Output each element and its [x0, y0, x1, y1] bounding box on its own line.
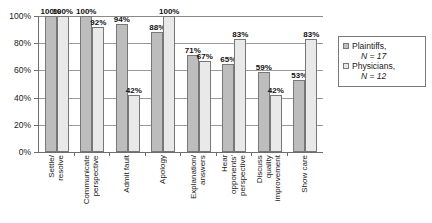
y-axis-tick-label: 0%: [19, 148, 31, 157]
y-axis-tick-label: 100%: [9, 12, 31, 21]
bar-value-label: 83%: [232, 31, 248, 39]
bar[interactable]: 42%: [128, 95, 140, 152]
x-axis-category: Settle/ resolve: [38, 155, 74, 223]
legend-swatch-icon: [343, 63, 349, 69]
x-axis-category: Discuss quality improvement: [251, 155, 287, 223]
x-axis-category: Apology: [145, 155, 181, 223]
bar-value-label: 42%: [126, 87, 142, 95]
x-axis-category-label: Show care: [300, 155, 309, 193]
bar-value-label: 100%: [53, 8, 73, 16]
legend-entry[interactable]: Physicians,: [343, 61, 421, 71]
legend-label: Plaintiffs,: [352, 41, 386, 51]
plot-area: 100%100%100%92%94%42%88%100%71%67%65%83%…: [38, 16, 323, 153]
bar-group: 53%83%: [288, 16, 324, 152]
bar[interactable]: 67%: [199, 61, 211, 152]
x-axis-category: Show care: [287, 155, 323, 223]
bar[interactable]: 100%: [57, 16, 69, 152]
y-axis-tick-label: 60%: [14, 66, 31, 75]
x-axis-category-labels: Settle/ resolveCommunicate perspectiveAd…: [38, 155, 322, 223]
bar-group: 100%100%: [39, 16, 75, 152]
bar-value-label: 42%: [268, 87, 284, 95]
bar[interactable]: 65%: [222, 64, 234, 152]
bar-value-label: 67%: [197, 53, 213, 61]
bar[interactable]: 100%: [163, 16, 175, 152]
legend-entry[interactable]: Plaintiffs,: [343, 41, 421, 51]
bar-group: 88%100%: [146, 16, 182, 152]
y-axis-tick-label: 40%: [14, 93, 31, 102]
x-axis-category-label: Admit fault: [122, 155, 131, 193]
bar[interactable]: 100%: [80, 16, 92, 152]
bar-value-label: 100%: [159, 8, 179, 16]
bar[interactable]: 92%: [92, 27, 104, 152]
x-axis-category-label: Discuss quality improvement: [255, 155, 282, 201]
bar[interactable]: 53%: [293, 80, 305, 152]
bar[interactable]: 59%: [258, 72, 270, 152]
chart-legend: Plaintiffs,N = 17Physicians,N = 12: [338, 36, 426, 87]
legend-sample-size: N = 17: [343, 51, 421, 61]
bar-value-label: 100%: [76, 8, 96, 16]
bar-chart-figure: 0%20%40%60%80%100% 100%100%100%92%94%42%…: [0, 0, 432, 223]
x-axis-category-label: Hear opponents' perspective: [220, 155, 247, 196]
x-axis-category-label: Explanation/ answers: [189, 155, 207, 199]
x-axis-category-label: Apology: [158, 155, 167, 184]
y-axis-tick-label: 20%: [14, 121, 31, 130]
y-axis-tick-label: 80%: [14, 39, 31, 48]
x-axis-category: Explanation/ answers: [180, 155, 216, 223]
bar[interactable]: 100%: [45, 16, 57, 152]
x-axis-category: Admit fault: [109, 155, 145, 223]
bar-group: 100%92%: [75, 16, 111, 152]
bar-value-label: 83%: [303, 31, 319, 39]
bar-groups: 100%100%100%92%94%42%88%100%71%67%65%83%…: [39, 16, 323, 152]
bar-group: 59%42%: [252, 16, 288, 152]
x-axis-category-label: Settle/ resolve: [47, 155, 65, 181]
legend-swatch-icon: [343, 43, 349, 49]
bar-group: 71%67%: [181, 16, 217, 152]
bar-group: 65%83%: [217, 16, 253, 152]
bar[interactable]: 83%: [305, 39, 317, 152]
bar[interactable]: 83%: [234, 39, 246, 152]
x-axis-category: Communicate perspective: [74, 155, 110, 223]
bar-value-label: 59%: [256, 64, 272, 72]
x-axis-category-label: Communicate perspective: [82, 155, 100, 204]
bar-value-label: 94%: [114, 16, 130, 24]
x-axis-category: Hear opponents' perspective: [216, 155, 252, 223]
bar[interactable]: 42%: [270, 95, 282, 152]
bar[interactable]: 71%: [187, 55, 199, 152]
legend-sample-size: N = 12: [343, 71, 421, 81]
y-axis: 0%20%40%60%80%100%: [0, 16, 34, 152]
bar-value-label: 92%: [90, 19, 106, 27]
legend-label: Physicians,: [352, 61, 395, 71]
bar[interactable]: 88%: [151, 32, 163, 152]
bar-group: 94%42%: [110, 16, 146, 152]
